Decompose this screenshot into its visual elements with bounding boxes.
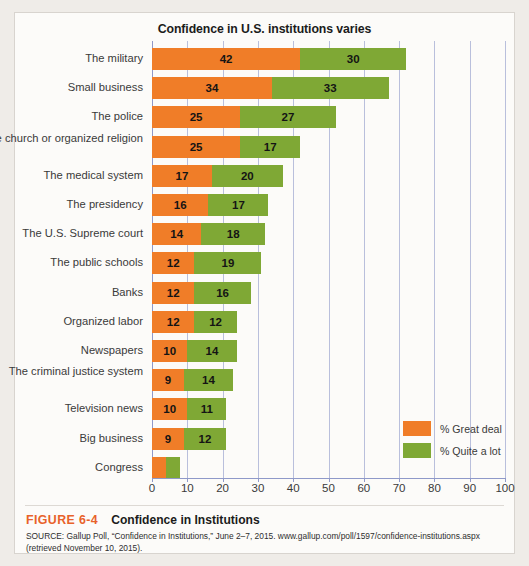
bar-segment-quite-a-lot: 12	[184, 428, 226, 450]
legend-swatch-great	[403, 421, 431, 436]
bar-segment-great-deal: 17	[152, 165, 212, 187]
bar-row: The church or organized religion2517	[152, 136, 505, 158]
x-tick-label: 70	[379, 482, 419, 494]
bar-segment-quite-a-lot: 14	[187, 340, 236, 362]
bar-series-group: The military4230Small business3433The po…	[152, 41, 505, 478]
bar-row: Small business3433	[152, 77, 505, 99]
bar-segment-quite-a-lot: 30	[300, 48, 406, 70]
category-label: Big business	[0, 432, 152, 445]
bar-value-label: 14	[187, 340, 236, 362]
bar-row: The military4230	[152, 48, 505, 70]
source-note: SOURCE: Gallup Poll, “Confidence in Inst…	[26, 531, 496, 554]
figure-title: Confidence in Institutions	[111, 513, 259, 527]
legend-swatch-quite	[403, 443, 431, 458]
chart-title: Confidence in U.S. institutions varies	[15, 22, 514, 36]
bar-value-label: 17	[240, 136, 300, 158]
category-label: The police	[0, 110, 152, 123]
bar-segment-quite-a-lot: 12	[194, 311, 236, 333]
bar-value-label: 18	[201, 223, 265, 245]
bar-value-label: 14	[152, 223, 201, 245]
bar-row: The medical system1720	[152, 165, 505, 187]
bar-segment-great-deal: 10	[152, 398, 187, 420]
x-tick-label: 100	[485, 482, 525, 494]
category-label: The U.S. Supreme court	[0, 227, 152, 240]
x-tick-label: 90	[450, 482, 490, 494]
bar-segment-quite-a-lot: 27	[240, 106, 335, 128]
bar-value-label: 12	[194, 311, 236, 333]
legend-item: % Great deal	[403, 421, 502, 436]
bar-segment-great-deal: 25	[152, 106, 240, 128]
bar-segment-quite-a-lot: 11	[187, 398, 226, 420]
bar-segment-quite-a-lot: 18	[201, 223, 265, 245]
bar-value-label: 17	[208, 194, 268, 216]
x-tick-label: 40	[273, 482, 313, 494]
legend: % Great deal% Quite a lot	[403, 421, 502, 465]
category-label: Small business	[0, 81, 152, 94]
bar-row: Banks1216	[152, 282, 505, 304]
bar-value-label: 19	[194, 252, 261, 274]
x-tick-label: 10	[167, 482, 207, 494]
category-label: The military	[0, 52, 152, 65]
bar-value-label: 33	[272, 77, 388, 99]
bar-segment-great-deal: 25	[152, 136, 240, 158]
bar-segment-great-deal: 34	[152, 77, 272, 99]
bar-value-label: 25	[152, 136, 240, 158]
figure-caption-line: FIGURE 6-4Confidence in Institutions	[26, 510, 260, 528]
bar-value-label: 42	[152, 48, 300, 70]
category-label: Television news	[0, 402, 152, 415]
caption-block: FIGURE 6-4Confidence in Institutions SOU…	[15, 505, 514, 555]
bar-value-label: 20	[212, 165, 283, 187]
figure-container: Confidence in U.S. institutions varies T…	[14, 12, 515, 554]
bar-value-label: 12	[152, 282, 194, 304]
gridline-100	[505, 41, 506, 478]
bar-row: Newspapers1014	[152, 340, 505, 362]
bar-value-label: 30	[300, 48, 406, 70]
legend-item: % Quite a lot	[403, 443, 502, 458]
category-label: The medical system	[0, 169, 152, 182]
bar-value-label: 27	[240, 106, 335, 128]
plot-area: The military4230Small business3433The po…	[152, 41, 505, 478]
bar-segment-great-deal: 9	[152, 428, 184, 450]
bar-row: The criminal justice system914	[152, 369, 505, 391]
bar-value-label: 16	[152, 194, 208, 216]
divider	[25, 505, 504, 506]
x-tick-label: 60	[344, 482, 384, 494]
bar-row: Television news1011	[152, 398, 505, 420]
bar-value-label: 14	[184, 369, 233, 391]
bar-segment-great-deal: 12	[152, 311, 194, 333]
category-label: Newspapers	[0, 344, 152, 357]
bar-segment-quite-a-lot: 14	[184, 369, 233, 391]
bar-row: The public schools1219	[152, 252, 505, 274]
bar-segment-great-deal: 12	[152, 282, 194, 304]
bar-value-label: 25	[152, 106, 240, 128]
x-tick-label: 50	[309, 482, 349, 494]
bar-segment-quite-a-lot: 17	[208, 194, 268, 216]
bar-value-label: 16	[194, 282, 250, 304]
bar-value-label: 11	[187, 398, 226, 420]
category-label: Banks	[0, 286, 152, 299]
x-tick-label: 20	[203, 482, 243, 494]
bar-value-label: 9	[152, 369, 184, 391]
bar-value-label: 12	[184, 428, 226, 450]
bar-segment-quite-a-lot	[166, 457, 180, 479]
x-tick-label: 80	[414, 482, 454, 494]
bar-segment-quite-a-lot: 19	[194, 252, 261, 274]
bar-segment-great-deal: 42	[152, 48, 300, 70]
bar-value-label: 9	[152, 428, 184, 450]
bar-row: The U.S. Supreme court1418	[152, 223, 505, 245]
bar-row: The police2527	[152, 106, 505, 128]
bar-segment-quite-a-lot: 17	[240, 136, 300, 158]
category-label: The public schools	[0, 256, 152, 269]
bar-value-label: 34	[152, 77, 272, 99]
category-label: The criminal justice system	[0, 365, 152, 378]
bar-value-label: 17	[152, 165, 212, 187]
bar-value-label: 12	[152, 252, 194, 274]
category-label: Congress	[0, 461, 152, 474]
category-label: The church or organized religion	[0, 132, 152, 145]
chart-panel: Confidence in U.S. institutions varies T…	[15, 13, 514, 503]
bar-segment-great-deal	[152, 457, 166, 479]
bar-segment-quite-a-lot: 16	[194, 282, 250, 304]
bar-value-label: 12	[152, 311, 194, 333]
x-tick-label: 30	[238, 482, 278, 494]
bar-segment-great-deal: 10	[152, 340, 187, 362]
